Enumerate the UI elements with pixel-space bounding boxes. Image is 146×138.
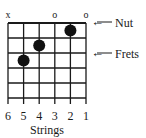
finger-dot-string2-fret1 [64, 25, 76, 37]
open-marker-string-1: o [84, 9, 89, 20]
frets-label: Frets [115, 47, 139, 61]
string-number-5: 5 [21, 109, 27, 123]
frets-callout: ← Frets [91, 45, 139, 61]
string-numbers: 6 5 4 3 2 1 [5, 109, 89, 123]
string-number-6: 6 [5, 109, 11, 123]
nut-callout: ← Nut [91, 14, 134, 30]
finger-dot-string4-fret2 [33, 40, 45, 52]
string-markers: x o o [6, 9, 89, 20]
string-number-4: 4 [36, 109, 42, 123]
open-marker-string-3: o [52, 9, 57, 20]
strings-axis-label: Strings [30, 123, 64, 137]
string-number-3: 3 [52, 109, 58, 123]
muted-marker-string-6: x [6, 9, 11, 20]
nut-label: Nut [115, 16, 134, 30]
chord-diagram: x o o ← Nut ← Frets 6 5 4 3 2 1 Strings [0, 0, 146, 138]
string-number-2: 2 [67, 109, 73, 123]
finger-dot-string5-fret3 [18, 55, 30, 67]
string-number-1: 1 [83, 109, 89, 123]
finger-dots [18, 25, 77, 67]
